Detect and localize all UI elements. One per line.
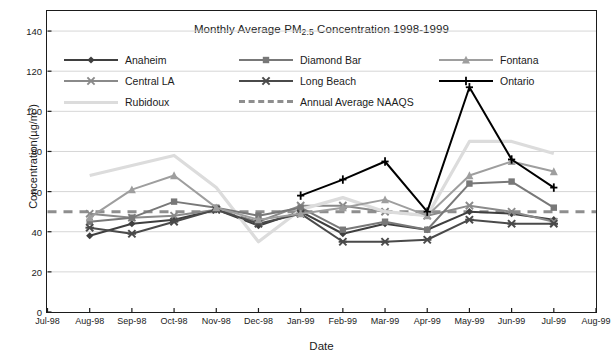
chart-title-main-a: Monthly Average PM	[194, 23, 302, 35]
x-tick-label: May-99	[454, 316, 484, 326]
legend-marker-fontana	[459, 53, 473, 67]
x-axis-title: Date	[46, 340, 597, 352]
legend-swatch-fontana	[439, 53, 493, 67]
x-tick-label: Feb-99	[329, 316, 358, 326]
y-tick-label: 60	[8, 186, 42, 197]
chart-title-main-b: Concentration 1998-1999	[314, 23, 449, 35]
x-tick-label: Aug-98	[75, 316, 104, 326]
x-tick-label: Apr-99	[414, 316, 441, 326]
x-tick-label: Oct-98	[161, 316, 188, 326]
legend-marker-long-beach	[259, 74, 273, 88]
chart-legend: AnaheimDiamond BarFontanaCentral LALong …	[64, 50, 584, 112]
legend-marker-ontario	[459, 74, 473, 88]
legend-marker-central-la	[84, 74, 98, 88]
y-axis-tick-labels: 020406080100120140	[4, 0, 42, 364]
x-tick-label: Sep-98	[117, 316, 146, 326]
y-tick-label: 120	[8, 66, 42, 77]
legend-item-long-beach[interactable]: Long Beach	[239, 71, 356, 90]
x-tick-label: Mar-99	[371, 316, 400, 326]
legend-swatch-rubidoux	[64, 95, 118, 109]
legend-item-rubidoux[interactable]: Rubidoux	[64, 92, 169, 111]
y-tick-label: 40	[8, 226, 42, 237]
x-tick-label: Aug-99	[581, 316, 610, 326]
legend-item-naaqs[interactable]: Annual Average NAAQS	[239, 92, 414, 111]
y-tick-label: 140	[8, 26, 42, 37]
x-tick-label: Jul-98	[35, 316, 60, 326]
legend-item-central-la[interactable]: Central LA	[64, 71, 175, 90]
legend-item-fontana[interactable]: Fontana	[439, 50, 539, 69]
legend-label-long-beach: Long Beach	[300, 75, 356, 87]
legend-item-diamond-bar[interactable]: Diamond Bar	[239, 50, 361, 69]
y-tick-label: 80	[8, 146, 42, 157]
legend-swatch-anaheim	[64, 53, 118, 67]
chart-title: Monthly Average PM2.5 Concentration 1998…	[46, 23, 597, 37]
legend-swatch-diamond-bar	[239, 53, 293, 67]
legend-item-ontario[interactable]: Ontario	[439, 71, 534, 90]
legend-swatch-ontario	[439, 74, 493, 88]
legend-marker-anaheim	[84, 53, 98, 67]
chart-title-subscript: 2.5	[302, 27, 314, 37]
x-tick-label: Dec-98	[244, 316, 273, 326]
x-tick-label: Jan-99	[287, 316, 315, 326]
legend-label-naaqs: Annual Average NAAQS	[300, 96, 414, 108]
legend-label-central-la: Central LA	[125, 75, 175, 87]
y-tick-label: 20	[8, 266, 42, 277]
y-tick-label: 100	[8, 106, 42, 117]
x-tick-label: Jul-99	[542, 316, 567, 326]
legend-swatch-naaqs	[239, 95, 293, 109]
legend-item-anaheim[interactable]: Anaheim	[64, 50, 166, 69]
legend-label-fontana: Fontana	[500, 54, 539, 66]
x-tick-label: Jun-99	[498, 316, 526, 326]
x-tick-label: Nov-98	[202, 316, 231, 326]
legend-label-anaheim: Anaheim	[125, 54, 166, 66]
legend-swatch-central-la	[64, 74, 118, 88]
legend-marker-diamond-bar	[259, 53, 273, 67]
legend-swatch-long-beach	[239, 74, 293, 88]
legend-label-diamond-bar: Diamond Bar	[300, 54, 361, 66]
legend-label-ontario: Ontario	[500, 75, 534, 87]
legend-label-rubidoux: Rubidoux	[125, 96, 169, 108]
